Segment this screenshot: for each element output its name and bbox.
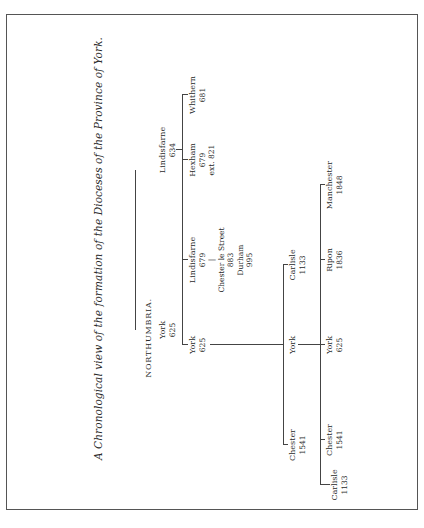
l1-york-name: York (188, 336, 197, 354)
rotated-page: A Chronological view of the formation of… (0, 0, 424, 528)
l3-chester: Chester 1541 (325, 424, 344, 456)
l1-lindisfarne-name: Lindisfarne (188, 237, 197, 283)
l1-york: York 625 (188, 336, 207, 354)
l1-hexham: Hexham 679 ext. 821 (188, 143, 217, 177)
l3-ripon-name: Ripon (325, 248, 334, 272)
chain-year-1: 883 (226, 227, 236, 292)
l3-manchester-year: 1848 (335, 161, 345, 209)
l3-carlisle-name: Carlisle (330, 469, 339, 500)
l3-carlisle: Carlisle 1133 (330, 469, 349, 500)
chain-name-2: Durham (236, 227, 246, 292)
chain-link: | (207, 227, 217, 292)
level2-bracket (283, 265, 284, 445)
chain-name-1: Chester le Street (217, 227, 227, 292)
l3-york-year: 625 (335, 336, 345, 354)
level3-bracket (320, 185, 321, 440)
level1-bracket (182, 95, 183, 345)
carlisle-branch-line (320, 440, 321, 485)
york-descent-line (210, 344, 283, 345)
tick (176, 149, 182, 150)
root-york: York 625 (158, 321, 177, 339)
root-lindisfarne-name: Lindisfarne (158, 127, 167, 173)
l1-york-year: 625 (198, 336, 208, 354)
root-york-year: 625 (168, 321, 178, 339)
l1-whithern-year: 681 (198, 76, 208, 114)
chain-year-2: 995 (245, 227, 255, 292)
york2-descent-line (298, 344, 320, 345)
l3-ripon-year: 1836 (335, 248, 345, 272)
l2-chester-year: 1541 (298, 429, 308, 461)
l1-hexham-note: ext. 821 (207, 143, 217, 177)
l1-whithern-name: Whithern (188, 76, 197, 114)
l1-hexham-year: 679 (198, 143, 208, 177)
l1-whithern: Whithern 681 (188, 76, 207, 114)
root-lindisfarne: Lindisfarne 634 (158, 127, 177, 173)
l2-chester-name: Chester (288, 429, 297, 461)
northumbria-heading: NORTHUMBRIA. (144, 298, 154, 378)
l2-carlisle-name: Carlisle (288, 249, 297, 280)
page-title: A Chronological view of the formation of… (92, 80, 104, 460)
l2-carlisle: Carlisle 1133 (288, 249, 307, 280)
l2-york: York (288, 336, 298, 354)
root-lindisfarne-year: 634 (168, 127, 178, 173)
l3-carlisle-year: 1133 (340, 469, 350, 500)
root-york-name: York (158, 321, 167, 339)
l3-chester-year: 1541 (335, 424, 345, 456)
l3-ripon: Ripon 1836 (325, 248, 344, 272)
l3-york-name: York (325, 336, 334, 354)
l2-york-name: York (288, 336, 297, 354)
title-rule (135, 170, 136, 330)
l3-york: York 625 (325, 336, 344, 354)
l2-chester: Chester 1541 (288, 429, 307, 461)
l3-chester-name: Chester (325, 424, 334, 456)
tick (320, 484, 330, 485)
l1-lindisfarne-year: 679 (198, 227, 208, 292)
l3-manchester-name: Manchester (325, 161, 334, 209)
l2-carlisle-year: 1133 (298, 249, 308, 280)
l3-manchester: Manchester 1848 (325, 161, 344, 209)
l1-hexham-name: Hexham (188, 143, 197, 177)
l1-lindisfarne: Lindisfarne 679 | Chester le Street 883 … (188, 227, 255, 292)
